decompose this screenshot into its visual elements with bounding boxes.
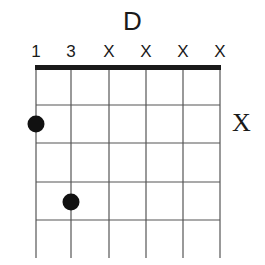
muted-marker: X	[232, 108, 251, 138]
finger-dot	[63, 194, 80, 211]
fretboard-grid	[0, 0, 265, 265]
nut-bar	[35, 65, 221, 70]
finger-dot	[28, 116, 45, 133]
strings	[36, 68, 220, 258]
